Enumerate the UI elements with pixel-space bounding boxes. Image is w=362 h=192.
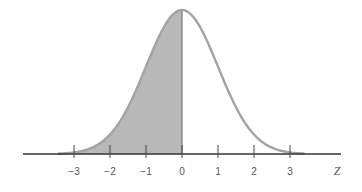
tick-label-neg1: −1 — [140, 166, 152, 177]
x-axis-tick-labels: −3 −2 −1 0 1 2 3 — [68, 166, 293, 177]
x-axis-label-z: Z — [334, 164, 341, 178]
normal-distribution-chart: −3 −2 −1 0 1 2 3 Z — [0, 0, 362, 192]
tick-label-2: 2 — [251, 166, 257, 177]
tick-label-3: 3 — [287, 166, 293, 177]
tick-label-neg3: −3 — [68, 166, 80, 177]
shaded-area-neg3-to-0 — [74, 10, 182, 154]
tick-label-1: 1 — [215, 166, 221, 177]
tick-label-0: 0 — [179, 166, 185, 177]
tick-label-neg2: −2 — [104, 166, 116, 177]
